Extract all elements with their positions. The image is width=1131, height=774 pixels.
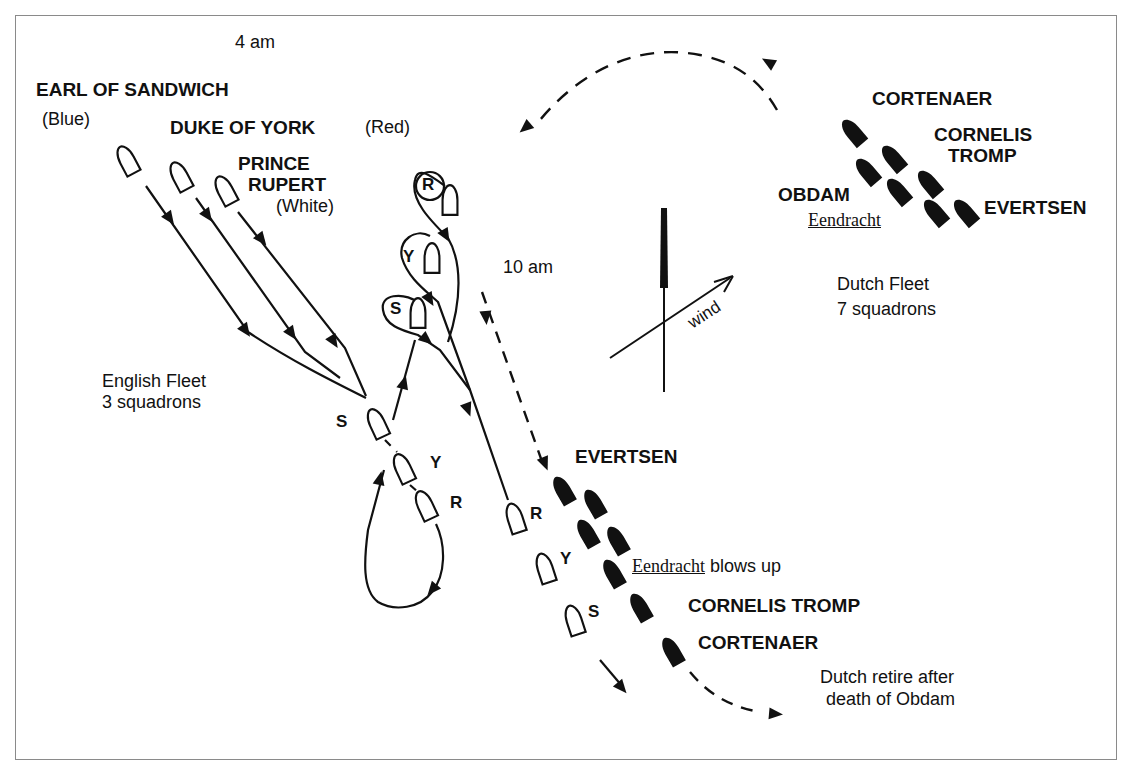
code-y-loop: Y [403, 248, 414, 267]
battle-diagram: 4 am 10 am EARL OF SANDWICH (Blue) DUKE … [0, 0, 1131, 774]
dutch-retreat-dashes [690, 672, 760, 712]
code-r-line2: R [530, 505, 542, 524]
code-s-line2: S [588, 603, 599, 622]
english-approach-tracks [146, 186, 366, 398]
dutch-fleet-label: Dutch Fleet [837, 275, 929, 295]
label-earl-of-sandwich: EARL OF SANDWICH [36, 80, 229, 101]
code-r-line1: R [450, 494, 462, 513]
label-rupert: RUPERT [248, 175, 326, 196]
label-white-squadron: (White) [276, 197, 334, 217]
english-ships-10am [411, 185, 458, 328]
time-10am: 10 am [503, 258, 553, 278]
tacking-loops [383, 172, 508, 500]
code-s-line1: S [336, 413, 347, 432]
label-duke-of-york: DUKE OF YORK [170, 118, 315, 139]
dutch-approach-arrowhead-2 [537, 455, 553, 472]
code-y-line2: Y [560, 550, 571, 569]
label-evertsen-battle: EVERTSEN [575, 447, 677, 468]
dutch-approach-dashes [482, 292, 545, 470]
label-cortenaer-battle: CORTENAER [698, 633, 818, 654]
label-prince: PRINCE [238, 154, 310, 175]
english-ships-line2 [503, 502, 585, 637]
dutch-initial-arc [540, 52, 777, 120]
code-y-line1: Y [430, 454, 441, 473]
english-exit-arrowhead [613, 679, 631, 697]
label-evertsen-initial: EVERTSEN [984, 198, 1086, 219]
label-blue-squadron: (Blue) [42, 110, 90, 130]
code-r-loop: R [422, 176, 434, 195]
label-tromp-initial: TROMP [948, 146, 1017, 167]
code-s-loop: S [390, 300, 401, 319]
dutch-retreat-label-line2: death of Obdam [826, 690, 955, 710]
label-cortenaer-initial: CORTENAER [872, 89, 992, 110]
english-fleet-label: English Fleet [102, 372, 206, 392]
dutch-fleet-count: 7 squadrons [837, 300, 936, 320]
dutch-retreat-arrowhead [769, 707, 784, 720]
label-eendracht-blows-up: Eendracht blows up [632, 557, 781, 577]
label-cornelis-tromp-battle: CORNELIS TROMP [688, 596, 860, 617]
label-cornelis-initial: CORNELIS [934, 125, 1032, 146]
label-eendracht-battle: Eendracht [632, 556, 705, 576]
label-blows-up: blows up [705, 556, 781, 576]
dutch-arc-arrowhead-1 [759, 53, 777, 70]
label-red-squadron: (Red) [365, 118, 410, 138]
dutch-arc-arrowhead-2 [516, 119, 534, 137]
english-fleet-count: 3 squadrons [102, 393, 201, 413]
loop-arrowheads [373, 374, 441, 600]
time-4am: 4 am [235, 33, 275, 53]
label-obdam: OBDAM [778, 185, 850, 206]
dutch-retreat-label-line1: Dutch retire after [820, 668, 954, 688]
english-ships-4am [113, 143, 238, 206]
label-eendracht-initial: Eendracht [808, 211, 881, 231]
